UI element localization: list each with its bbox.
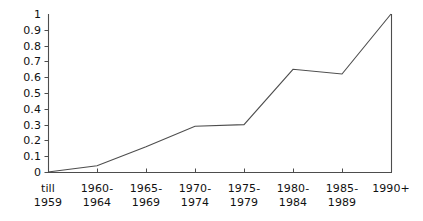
x-axis-tick-label-line: 1960-	[81, 182, 113, 196]
x-axis-tick-label-line: 1985-	[326, 182, 358, 196]
x-axis-tick-label-line: 1970-	[179, 182, 211, 196]
x-axis-tick-label: 1960-1964	[81, 182, 113, 209]
x-axis-tick-label-line: 1975-	[228, 182, 260, 196]
x-axis-tick-label-line: 1979	[228, 196, 260, 210]
x-axis-tick-label: till1959	[34, 182, 62, 209]
x-axis-tick-label-line: 1989	[326, 196, 358, 210]
x-axis-tick-label-line: 1969	[130, 196, 162, 210]
x-axis-tick-label-line: 1974	[179, 196, 211, 210]
x-axis-tick-label: 1970-1974	[179, 182, 211, 209]
x-axis-tick-label-line: 1965-	[130, 182, 162, 196]
x-axis: till19591960-19641965-19691970-19741975-…	[0, 0, 423, 221]
line-chart: 00.10.20.30.40.50.60.70.80.91 till195919…	[0, 0, 423, 221]
x-axis-tick-label-line: 1959	[34, 196, 62, 210]
x-axis-tick-label-line: 1980-	[277, 182, 309, 196]
x-axis-tick-label: 1990+	[372, 182, 410, 196]
x-axis-tick-label-line: till	[34, 182, 62, 196]
x-axis-tick-label: 1985-1989	[326, 182, 358, 209]
x-axis-tick-label-line: 1984	[277, 196, 309, 210]
x-axis-tick-label-line: 1990+	[372, 182, 410, 196]
x-axis-tick-label: 1980-1984	[277, 182, 309, 209]
x-axis-tick-label: 1975-1979	[228, 182, 260, 209]
x-axis-tick-label-line: 1964	[81, 196, 113, 210]
x-axis-tick-label: 1965-1969	[130, 182, 162, 209]
